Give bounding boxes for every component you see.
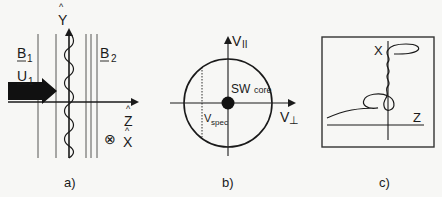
caption-c: c) xyxy=(379,175,390,190)
figure-canvas: B 1 U 1 B 2 ^ Y ^ Z ⊗ ^ X a) V II V ⊥ SW… xyxy=(0,0,442,197)
y-hat: ^ xyxy=(59,2,64,12)
z-axis-label: Z xyxy=(413,110,421,125)
panel-c: X Z c) xyxy=(322,37,434,190)
b2-label: B xyxy=(100,45,109,61)
v-perp-subscript: ⊥ xyxy=(289,114,299,126)
u1-subscript: 1 xyxy=(28,76,34,87)
panel-a: B 1 U 1 B 2 ^ Y ^ Z ⊗ ^ X a) xyxy=(8,2,137,190)
y-axis-label: Y xyxy=(58,12,68,28)
particle-trajectory xyxy=(327,44,419,118)
b1-label: B xyxy=(17,45,26,61)
u1-label: U xyxy=(17,68,27,84)
b2-subscript: 2 xyxy=(111,53,117,64)
caption-a: a) xyxy=(64,175,76,190)
b1-subscript: 1 xyxy=(27,53,33,64)
x-axis-label: X xyxy=(374,43,383,58)
v-parallel-subscript: II xyxy=(242,39,248,50)
panel-b: V II V ⊥ SW core V spec b) xyxy=(170,33,299,190)
x-axis-label: X xyxy=(123,134,133,150)
caption-b: b) xyxy=(222,175,234,190)
sw-core-label: SW xyxy=(231,82,251,96)
v-parallel-label: V xyxy=(232,33,242,49)
into-page-icon: ⊗ xyxy=(104,131,116,147)
v-spec-subscript: spec xyxy=(211,118,228,127)
sw-core-subscript: core xyxy=(254,85,272,95)
sw-core-dot xyxy=(222,97,235,110)
